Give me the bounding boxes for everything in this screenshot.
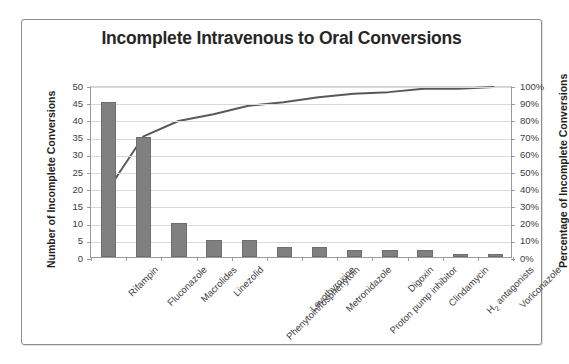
gridline: [91, 156, 511, 157]
x-tick: [337, 257, 338, 261]
y-tick-label-right: 50%: [520, 167, 539, 178]
y-tick-label-right: 20%: [520, 218, 539, 229]
x-tick: [161, 257, 162, 261]
bar: [417, 250, 432, 257]
x-tick: [126, 257, 127, 261]
y-tick-left: [87, 121, 91, 122]
y-tick-right: [511, 121, 515, 122]
x-tick: [513, 257, 514, 261]
y-tick-label-left: 0: [43, 253, 83, 264]
gridline: [91, 121, 511, 122]
x-tick: [478, 257, 479, 261]
bar: [277, 247, 292, 257]
chart-frame: Incomplete Intravenous to Oral Conversio…: [21, 19, 542, 345]
y-tick-label-left: 5: [43, 235, 83, 246]
gridline: [91, 173, 511, 174]
y-tick-left: [87, 242, 91, 243]
y-tick-label-right: 0%: [520, 253, 534, 264]
y-axis-right-title: Percentage of Incomplete Conversions: [557, 74, 569, 268]
y-tick-label-left: 40: [43, 115, 83, 126]
subscript-2: 2: [493, 304, 501, 312]
y-tick-label-right: 30%: [520, 201, 539, 212]
y-tick-label-right: 40%: [520, 184, 539, 195]
gridline: [91, 87, 511, 88]
x-tick: [372, 257, 373, 261]
y-tick-label-right: 80%: [520, 115, 539, 126]
y-tick-right: [511, 225, 515, 226]
y-tick-left: [87, 190, 91, 191]
bar: [382, 250, 397, 257]
bar: [453, 254, 468, 257]
y-tick-right: [511, 156, 515, 157]
bar: [101, 102, 116, 257]
x-axis-label: Rifampin: [126, 264, 160, 298]
bar: [136, 137, 151, 257]
bar: [242, 240, 257, 257]
bar: [171, 223, 186, 257]
gridline: [91, 207, 511, 208]
y-tick-label-left: 25: [43, 167, 83, 178]
x-tick: [302, 257, 303, 261]
y-tick-right: [511, 87, 515, 88]
y-tick-label-right: 60%: [520, 149, 539, 160]
plot-area: 00%510%1020%1530%2040%2550%3060%3570%408…: [90, 86, 512, 258]
y-tick-label-right: 100%: [520, 81, 544, 92]
bar: [347, 250, 362, 257]
y-tick-label-right: 10%: [520, 235, 539, 246]
bar: [312, 247, 327, 257]
x-axis-category-labels: RifampinFluconazoleMacrolidesLinezolidPh…: [90, 262, 512, 362]
x-tick: [197, 257, 198, 261]
y-tick-right: [511, 104, 515, 105]
y-tick-left: [87, 225, 91, 226]
y-tick-left: [87, 139, 91, 140]
gridline: [91, 139, 511, 140]
y-tick-left: [87, 207, 91, 208]
y-tick-label-left: 45: [43, 98, 83, 109]
gridline: [91, 225, 511, 226]
y-tick-label-left: 10: [43, 218, 83, 229]
x-tick: [267, 257, 268, 261]
y-tick-label-right: 70%: [520, 132, 539, 143]
gridline: [91, 242, 511, 243]
x-tick: [408, 257, 409, 261]
y-tick-left: [87, 87, 91, 88]
y-tick-label-left: 50: [43, 81, 83, 92]
y-tick-left: [87, 173, 91, 174]
y-tick-right: [511, 242, 515, 243]
y-tick-label-right: 90%: [520, 98, 539, 109]
y-tick-right: [511, 207, 515, 208]
bar: [206, 240, 221, 257]
y-tick-right: [511, 173, 515, 174]
y-tick-right: [511, 139, 515, 140]
chart-title: Incomplete Intravenous to Oral Conversio…: [22, 28, 541, 49]
gridline: [91, 190, 511, 191]
y-tick-label-left: 15: [43, 201, 83, 212]
x-tick: [91, 257, 92, 261]
y-tick-label-left: 30: [43, 149, 83, 160]
cumulative-line-series: [91, 87, 511, 257]
x-axis-label: Fluconazole: [165, 264, 209, 308]
x-tick: [443, 257, 444, 261]
y-tick-label-left: 20: [43, 184, 83, 195]
y-tick-right: [511, 190, 515, 191]
y-tick-left: [87, 104, 91, 105]
x-tick: [232, 257, 233, 261]
gridline: [91, 104, 511, 105]
y-tick-left: [87, 156, 91, 157]
bar: [488, 254, 503, 257]
y-tick-label-left: 35: [43, 132, 83, 143]
